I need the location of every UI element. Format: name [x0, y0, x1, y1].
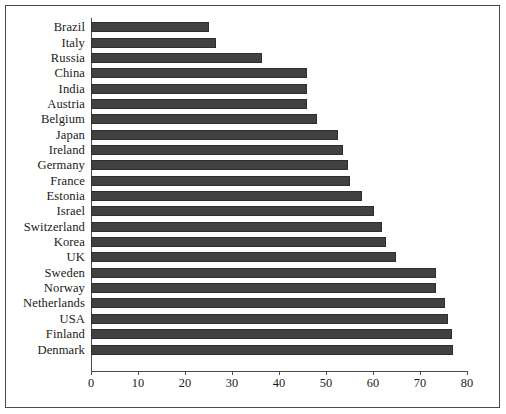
- bar-row: UK: [0, 250, 506, 265]
- bar-row: Austria: [0, 96, 506, 111]
- bar: [91, 191, 362, 201]
- bar-category-label: Switzerland: [24, 219, 85, 234]
- bar-category-label: Norway: [44, 281, 85, 296]
- x-axis-tick-mark: [467, 371, 468, 375]
- bar-row: USA: [0, 311, 506, 326]
- bar-row: Netherlands: [0, 296, 506, 311]
- bar-category-label: Ireland: [49, 142, 85, 157]
- bar-category-label: Finland: [46, 327, 85, 342]
- x-axis-tick-label: 40: [273, 376, 285, 391]
- bar-row: Switzerland: [0, 219, 506, 234]
- bar: [91, 145, 343, 155]
- x-axis-tick-mark: [185, 371, 186, 375]
- bar-category-label: Russia: [51, 50, 85, 65]
- x-axis-tick-label: 20: [179, 376, 191, 391]
- bar-row: Belgium: [0, 112, 506, 127]
- bar-category-label: Brazil: [54, 20, 85, 35]
- bar: [91, 329, 452, 339]
- bar-category-label: Austria: [47, 96, 85, 111]
- bar-row: Denmark: [0, 342, 506, 357]
- bar: [91, 22, 209, 32]
- bar-row: Finland: [0, 327, 506, 342]
- x-axis-tick-mark: [373, 371, 374, 375]
- bar-category-label: USA: [60, 311, 86, 326]
- bar: [91, 252, 396, 262]
- bar-row: Estonia: [0, 188, 506, 203]
- bar-category-label: India: [59, 81, 85, 96]
- bar-row: Israel: [0, 204, 506, 219]
- x-axis-tick-mark: [138, 371, 139, 375]
- bar-category-label: Germany: [37, 158, 85, 173]
- x-axis-tick-mark: [91, 371, 92, 375]
- bar: [91, 298, 445, 308]
- bar-chart-plot: BrazilItalyRussiaChinaIndiaAustriaBelgiu…: [0, 0, 506, 414]
- bar: [91, 38, 216, 48]
- bar-category-label: China: [54, 66, 85, 81]
- bar-row: Sweden: [0, 265, 506, 280]
- x-axis-tick-mark: [326, 371, 327, 375]
- bar-category-label: UK: [67, 250, 85, 265]
- bar-category-label: Italy: [61, 35, 85, 50]
- bar-row: Japan: [0, 127, 506, 142]
- bar: [91, 130, 338, 140]
- bar-row: Norway: [0, 280, 506, 295]
- x-axis-tick-label: 10: [132, 376, 144, 391]
- bar-category-label: Denmark: [37, 342, 85, 357]
- bar: [91, 283, 436, 293]
- bar-row: Russia: [0, 50, 506, 65]
- bar: [91, 314, 448, 324]
- bar: [91, 268, 436, 278]
- bar: [91, 99, 307, 109]
- bar: [91, 114, 317, 124]
- x-axis-tick-label: 70: [414, 376, 426, 391]
- x-axis-tick-label: 50: [320, 376, 332, 391]
- bar: [91, 68, 307, 78]
- chart-page: BrazilItalyRussiaChinaIndiaAustriaBelgiu…: [0, 0, 506, 414]
- x-axis-tick-mark: [232, 371, 233, 375]
- bar-row: Brazil: [0, 20, 506, 35]
- x-axis-tick-label: 30: [226, 376, 238, 391]
- bar-row: Korea: [0, 234, 506, 249]
- bar: [91, 160, 348, 170]
- bar-category-label: Belgium: [41, 112, 85, 127]
- bar-row: France: [0, 173, 506, 188]
- bar-row: India: [0, 81, 506, 96]
- bar-category-label: Estonia: [47, 189, 85, 204]
- x-axis-tick-mark: [420, 371, 421, 375]
- bar-row: China: [0, 66, 506, 81]
- bar: [91, 53, 262, 63]
- x-axis-tick-label: 60: [367, 376, 379, 391]
- bar-category-label: Sweden: [45, 265, 85, 280]
- bar: [91, 206, 374, 216]
- bar: [91, 176, 350, 186]
- bar-category-label: Japan: [56, 127, 85, 142]
- bar-row: Germany: [0, 158, 506, 173]
- bar-category-label: Korea: [54, 235, 85, 250]
- x-axis-tick-mark: [279, 371, 280, 375]
- bar: [91, 222, 382, 232]
- x-axis-tick-label: 0: [88, 376, 94, 391]
- bar-row: Ireland: [0, 142, 506, 157]
- bar-category-label: Netherlands: [23, 296, 85, 311]
- bar-row: Italy: [0, 35, 506, 50]
- bar-category-label: Israel: [56, 204, 85, 219]
- bar: [91, 237, 386, 247]
- bar: [91, 345, 453, 355]
- bar-category-label: France: [50, 173, 85, 188]
- x-axis-tick-label: 80: [461, 376, 473, 391]
- bar: [91, 84, 307, 94]
